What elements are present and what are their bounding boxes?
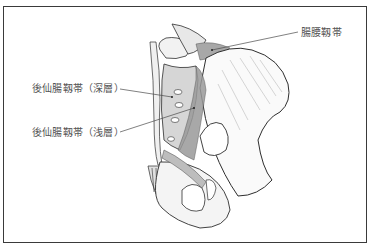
obturator-foramen (182, 184, 205, 211)
label-iliolumbar-ligament: 腸腰靱帯 (301, 28, 342, 38)
label-posterior-sacroiliac-superficial: 後仙腸靱帯（浅層） (32, 128, 124, 138)
ilium (200, 48, 289, 196)
label-posterior-sacroiliac-deep: 後仙腸靱帯（深層） (32, 84, 124, 94)
greater-sciatic-notch (200, 123, 228, 156)
spinal-strip (150, 42, 162, 165)
